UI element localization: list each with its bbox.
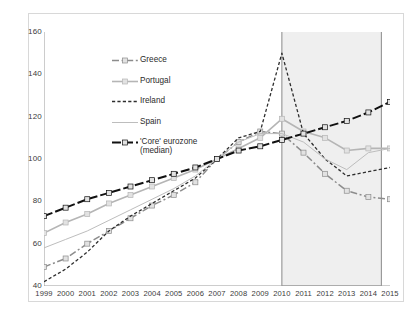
series-marker — [128, 192, 133, 197]
x-axis-tick-2001: 2001 — [79, 289, 96, 298]
series-marker — [344, 118, 349, 123]
series-marker — [366, 110, 371, 115]
series-marker — [106, 190, 111, 195]
series-marker — [128, 184, 133, 189]
x-axis-tick-labels: 1999200020012002200320042005200620072008… — [44, 289, 390, 303]
legend-item-portugal[interactable]: Portugal — [112, 76, 242, 87]
y-axis-tick-80: 80 — [16, 197, 42, 205]
series-marker — [344, 148, 349, 153]
x-axis-tick-2014: 2014 — [360, 289, 377, 298]
x-axis-tick-2004: 2004 — [143, 289, 160, 298]
series-marker — [366, 146, 371, 151]
legend-label: Greece — [138, 55, 167, 64]
y-axis-tick-120: 120 — [16, 113, 42, 121]
y-axis-tick-160: 160 — [16, 28, 42, 36]
series-marker — [323, 171, 328, 176]
series-marker — [150, 184, 155, 189]
y-axis-tick-100: 100 — [16, 155, 42, 163]
series-marker — [44, 264, 47, 269]
legend-item-coreeurozone[interactable]: 'Core' eurozone (median) — [112, 137, 242, 148]
series-marker — [193, 180, 198, 185]
y-axis-tick-labels: 406080100120140160 — [12, 32, 42, 286]
legend-swatch-icon — [112, 55, 138, 66]
series-marker — [279, 137, 284, 142]
legend-label: Portugal — [138, 76, 171, 85]
x-axis-tick-2007: 2007 — [208, 289, 225, 298]
x-axis-tick-2009: 2009 — [252, 289, 269, 298]
series-marker — [63, 256, 68, 261]
series-marker — [279, 116, 284, 121]
legend-item-spain[interactable]: Spain — [112, 117, 242, 128]
series-marker — [85, 197, 90, 202]
y-axis-tick-140: 140 — [16, 70, 42, 78]
x-axis-tick-2015: 2015 — [381, 289, 398, 298]
legend-swatch-icon — [112, 76, 138, 87]
series-marker — [366, 195, 371, 200]
chart-figure: 406080100120140160 199920002001200220032… — [0, 0, 416, 325]
series-marker — [258, 135, 263, 140]
series-marker — [301, 131, 306, 136]
series-marker — [193, 165, 198, 170]
x-axis-tick-2012: 2012 — [316, 289, 333, 298]
series-marker — [388, 197, 391, 202]
x-axis-tick-2011: 2011 — [295, 289, 312, 298]
chart-legend: GreecePortugalIrelandSpain'Core' eurozon… — [112, 55, 242, 158]
legend-swatch-icon — [112, 137, 138, 148]
series-marker — [63, 205, 68, 210]
series-marker — [44, 214, 47, 219]
legend-label: Ireland — [138, 96, 165, 105]
series-marker — [323, 135, 328, 140]
x-axis-tick-2013: 2013 — [338, 289, 355, 298]
x-axis-tick-2003: 2003 — [122, 289, 139, 298]
series-marker — [258, 144, 263, 149]
x-axis-tick-2000: 2000 — [57, 289, 74, 298]
x-axis-tick-1999: 1999 — [35, 289, 52, 298]
x-axis-tick-2006: 2006 — [187, 289, 204, 298]
x-axis-tick-2002: 2002 — [100, 289, 117, 298]
series-marker — [171, 171, 176, 176]
legend-label: Spain — [138, 117, 161, 126]
legend-label: 'Core' eurozone (median) — [138, 137, 197, 155]
series-marker — [388, 99, 391, 104]
legend-swatch-icon — [112, 117, 138, 128]
series-marker — [63, 220, 68, 225]
series-marker — [85, 241, 90, 246]
legend-swatch-icon — [112, 96, 138, 107]
x-axis-tick-2008: 2008 — [230, 289, 247, 298]
series-marker — [301, 150, 306, 155]
x-axis-tick-2005: 2005 — [165, 289, 182, 298]
series-marker — [150, 178, 155, 183]
series-marker — [323, 125, 328, 130]
series-marker — [85, 212, 90, 217]
series-marker — [106, 201, 111, 206]
forecast-shaded-region — [282, 32, 381, 286]
x-axis-tick-2010: 2010 — [273, 289, 290, 298]
legend-item-greece[interactable]: Greece — [112, 55, 242, 66]
series-marker — [344, 188, 349, 193]
series-marker — [44, 231, 47, 236]
y-axis-tick-60: 60 — [16, 240, 42, 248]
series-marker — [171, 192, 176, 197]
legend-item-ireland[interactable]: Ireland — [112, 96, 242, 107]
